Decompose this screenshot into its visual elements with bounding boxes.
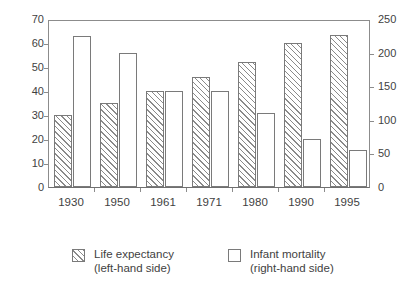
x-axis-label-1930: 1930 xyxy=(48,196,94,208)
right-axis-tick-mark xyxy=(370,154,374,155)
chart-figure: 010203040506070 050100150200250 19301950… xyxy=(0,0,418,290)
right-axis-tick-mark xyxy=(370,54,374,55)
bar-infant-mortality xyxy=(165,91,183,187)
legend-entry-infant-mortality[interactable]: Infant mortality(right-hand side) xyxy=(228,248,334,275)
right-axis-tick-label: 150 xyxy=(378,81,396,92)
left-axis-tick-label: 10 xyxy=(14,158,44,169)
bar-life-expectancy xyxy=(238,62,256,187)
bar-infant-mortality xyxy=(211,91,229,187)
left-axis-tick-label: 20 xyxy=(14,134,44,145)
legend-text-block: Infant mortality(right-hand side) xyxy=(250,248,334,275)
x-axis-tick-mark xyxy=(94,188,95,192)
right-axis-tick-label: 200 xyxy=(378,48,396,59)
chart-legend: Life expectancy(left-hand side)Infant mo… xyxy=(0,244,418,288)
x-axis-tick-mark xyxy=(324,188,325,192)
x-axis-label-1950: 1950 xyxy=(94,196,140,208)
bar-life-expectancy xyxy=(330,35,348,187)
x-axis-label-1980: 1980 xyxy=(232,196,278,208)
legend-entry-life-expectancy[interactable]: Life expectancy(left-hand side) xyxy=(72,248,174,275)
right-axis-tick-label: 250 xyxy=(378,14,396,25)
x-axis-label-1995: 1995 xyxy=(324,196,370,208)
legend-sublabel: (left-hand side) xyxy=(94,262,174,276)
right-axis-tick-label: 50 xyxy=(378,148,390,159)
x-axis-tick-mark xyxy=(232,188,233,192)
left-axis-tick-label: 40 xyxy=(14,86,44,97)
legend-text-block: Life expectancy(left-hand side) xyxy=(94,248,174,275)
right-axis-tick-mark xyxy=(370,121,374,122)
legend-sublabel: (right-hand side) xyxy=(250,262,334,276)
plot-area xyxy=(48,20,370,188)
bar-infant-mortality xyxy=(119,53,137,187)
legend-label: Infant mortality xyxy=(250,248,334,262)
legend-swatch-icon xyxy=(228,249,241,262)
legend-label: Life expectancy xyxy=(94,248,174,262)
right-axis-tick-mark xyxy=(370,87,374,88)
bar-life-expectancy xyxy=(100,103,118,187)
x-axis-label-1990: 1990 xyxy=(278,196,324,208)
left-axis-tick-label: 50 xyxy=(14,62,44,73)
bar-life-expectancy xyxy=(284,43,302,187)
left-axis-tick-label: 70 xyxy=(14,14,44,25)
x-axis-tick-mark xyxy=(186,188,187,192)
right-axis-tick-label: 0 xyxy=(378,182,384,193)
left-axis-tick-label: 60 xyxy=(14,38,44,49)
legend-swatch-icon xyxy=(72,249,85,262)
bar-life-expectancy xyxy=(192,77,210,187)
left-axis-tick-label: 0 xyxy=(14,182,44,193)
x-axis-label-1961: 1961 xyxy=(140,196,186,208)
x-axis-tick-mark xyxy=(140,188,141,192)
bar-infant-mortality xyxy=(349,150,367,187)
bar-infant-mortality xyxy=(257,113,275,187)
bar-infant-mortality xyxy=(303,139,321,187)
left-axis-tick-label: 30 xyxy=(14,110,44,121)
x-axis-label-1971: 1971 xyxy=(186,196,232,208)
bar-life-expectancy xyxy=(146,91,164,187)
bar-infant-mortality xyxy=(73,36,91,187)
right-axis-tick-label: 100 xyxy=(378,115,396,126)
bar-life-expectancy xyxy=(54,115,72,187)
x-axis-tick-mark xyxy=(278,188,279,192)
